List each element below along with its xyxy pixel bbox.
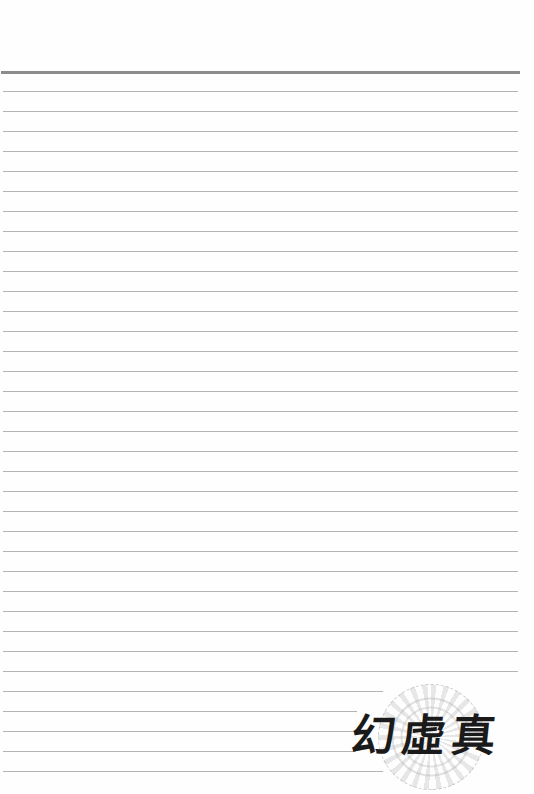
ruled-line	[3, 731, 356, 732]
ruled-line	[3, 471, 518, 472]
lined-paper-page: 幻 虛 真	[0, 0, 534, 794]
ruled-line	[3, 331, 518, 332]
ruled-line	[3, 171, 518, 172]
ruled-line	[3, 671, 518, 672]
ruled-line	[3, 371, 518, 372]
ruled-line	[3, 451, 518, 452]
ruled-line	[3, 571, 518, 572]
ruled-line	[3, 631, 518, 632]
ruled-line	[3, 291, 518, 292]
ruled-line	[3, 611, 518, 612]
ruled-line	[3, 271, 518, 272]
ruled-line	[3, 251, 518, 252]
ruled-line	[3, 531, 518, 532]
ruled-line	[3, 151, 518, 152]
ruled-line	[3, 411, 518, 412]
ruled-line	[3, 211, 518, 212]
ruled-line	[3, 551, 518, 552]
ruled-line	[3, 231, 518, 232]
ruled-line	[3, 711, 357, 712]
ruled-line	[3, 431, 518, 432]
top-rule	[1, 71, 520, 74]
calligraphy-watermark: 幻 虛 真	[352, 706, 496, 766]
watermark-char-3: 真	[449, 706, 499, 766]
ruled-line	[3, 771, 383, 772]
ruled-line	[3, 691, 383, 692]
watermark-char-1: 幻	[349, 706, 399, 766]
ruled-line	[3, 91, 518, 92]
ruled-line	[3, 131, 518, 132]
ruled-line	[3, 491, 518, 492]
ruled-line	[3, 751, 356, 752]
watermark-char-2: 虛	[399, 706, 449, 766]
ruled-line	[3, 511, 518, 512]
ruled-line	[3, 591, 518, 592]
ruled-line	[3, 191, 518, 192]
ruled-line	[3, 651, 518, 652]
ruled-line	[3, 391, 518, 392]
ruled-line	[3, 111, 518, 112]
ruled-line	[3, 311, 518, 312]
ruled-line	[3, 351, 518, 352]
